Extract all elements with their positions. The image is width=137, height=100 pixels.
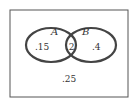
set-a-label: A [50,26,58,37]
b-only-value: .4 [92,42,101,52]
set-b-label: B [81,26,89,37]
intersection-value: .2 [66,42,75,52]
a-only-value: .15 [35,42,50,52]
venn-diagram: A B .15 .2 .4 .25 [0,0,137,100]
outside-value: .25 [62,74,77,84]
